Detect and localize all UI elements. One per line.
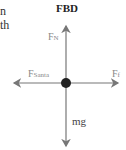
friction-force-label: Ff	[112, 68, 120, 79]
santa-force-label: FSanta	[28, 68, 49, 79]
normal-force-label: FN	[48, 31, 59, 42]
gravity-force-label: mg	[72, 115, 86, 127]
free-body-diagram	[0, 0, 126, 150]
object-dot	[61, 78, 71, 88]
